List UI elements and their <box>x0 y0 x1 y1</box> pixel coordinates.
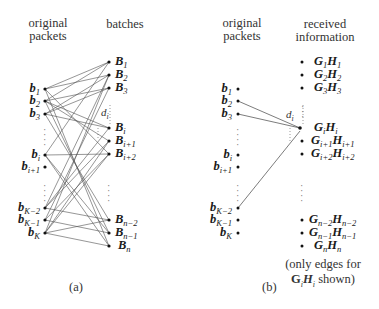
panel-a-header-batches: batches <box>100 18 150 31</box>
packet-label-bi1: bi+1 <box>196 160 232 177</box>
note-line-2: GiHi shown) <box>278 272 368 292</box>
panel-a-caption: (a) <box>69 280 83 295</box>
packet-label-bi1: bi+1 <box>4 160 40 177</box>
panel-a-header-original-packets: original packets <box>18 17 78 43</box>
vertical-ellipsis: ···· <box>236 183 239 203</box>
received-label-Gi2Hi2: Gi+2Hi+2 <box>311 147 354 164</box>
packet-label-b3: b3 <box>4 107 40 124</box>
degree-label-di: di <box>101 106 109 121</box>
packet-label-bK: bK <box>196 226 232 243</box>
panel-b-note: (only edges for GiHi shown) <box>278 257 368 292</box>
packet-label-bK: bK <box>4 226 40 243</box>
vertical-ellipsis: ···· <box>43 127 46 147</box>
panel-a-edges <box>45 62 109 246</box>
vertical-ellipsis: ···· <box>107 183 110 203</box>
vertical-ellipsis: ···· <box>300 183 303 203</box>
header-line: information <box>285 31 365 44</box>
vertical-ellipsis: ···· <box>43 183 46 203</box>
packet-label-b3: b3 <box>196 107 232 124</box>
batch-label-B3: B3 <box>115 81 128 98</box>
received-label-G3H3: G3H3 <box>314 81 341 98</box>
header-line: packets <box>212 30 272 43</box>
panel-b-header-original-packets: original packets <box>212 17 272 43</box>
panel-b-header-received-information: received information <box>285 18 365 44</box>
degree-label-di: di <box>286 108 294 123</box>
batch-label-Bn: Bn <box>118 239 131 256</box>
batch-label-Bi2: Bi+2 <box>115 147 136 164</box>
header-line: packets <box>18 30 78 43</box>
panel-b-caption: (b) <box>262 280 277 295</box>
received-label-GnHn: GnHn <box>314 239 341 256</box>
note-line-1: (only edges for <box>278 257 368 272</box>
vertical-ellipsis: ··· <box>301 104 304 119</box>
vertical-ellipsis: ···· <box>236 127 239 147</box>
panel-b-nodes <box>237 61 304 248</box>
